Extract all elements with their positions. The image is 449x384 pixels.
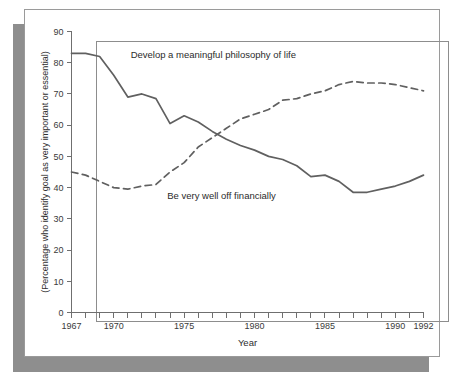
- y-axis: 0102030405060708090: [53, 27, 71, 318]
- series-label-1: Develop a meaningful philosophy of life: [131, 49, 296, 60]
- series-line-1: [72, 53, 424, 192]
- y-tick-label: 40: [53, 183, 63, 193]
- series-annotations: Develop a meaningful philosophy of lifeB…: [131, 49, 296, 201]
- y-tick-label: 60: [53, 120, 63, 130]
- x-tick-label: 1980: [245, 321, 265, 331]
- y-tick-label: 0: [58, 308, 63, 318]
- x-axis: 1967197019751980198519901992: [61, 313, 433, 331]
- y-tick-label: 30: [53, 214, 63, 224]
- y-tick-label: 90: [53, 27, 63, 37]
- y-axis-title: (Percentage who identify goal as very im…: [40, 51, 50, 293]
- y-tick-label: 70: [53, 89, 63, 99]
- y-tick-label: 50: [53, 152, 63, 162]
- data-series-group: [72, 53, 424, 192]
- series-line-2: [72, 81, 424, 189]
- x-tick-label: 1967: [61, 321, 81, 331]
- x-tick-label: 1975: [174, 321, 194, 331]
- series-label-2: Be very well off financially: [167, 190, 276, 201]
- x-tick-label: 1985: [315, 321, 335, 331]
- y-tick-label: 20: [53, 245, 63, 255]
- x-tick-label: 1970: [104, 321, 124, 331]
- x-tick-label: 1992: [413, 321, 433, 331]
- caption-fragment: [2, 374, 202, 384]
- x-axis-title: Year: [238, 337, 257, 348]
- y-tick-label: 10: [53, 277, 63, 287]
- x-tick-label: 1990: [385, 321, 405, 331]
- y-tick-label: 80: [53, 58, 63, 68]
